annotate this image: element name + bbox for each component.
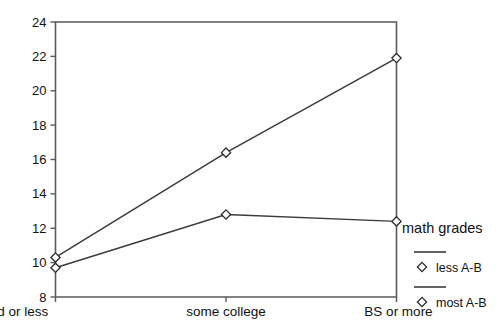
legend-label: most A-B xyxy=(436,296,487,310)
data-point-marker xyxy=(221,148,230,157)
data-point-marker xyxy=(392,217,401,226)
x-tick-label: some college xyxy=(186,304,266,319)
y-tick-label: 20 xyxy=(32,83,46,98)
y-tick-label: 16 xyxy=(32,152,46,167)
legend-marker-icon xyxy=(417,262,426,271)
y-tick-label: 24 xyxy=(32,15,46,30)
series-most-a-b xyxy=(51,210,401,272)
legend-entry[interactable]: less A-B xyxy=(414,252,482,275)
y-tick-label: 12 xyxy=(32,221,46,236)
chart-canvas: 81012141618202224 hs grad or lesssome co… xyxy=(0,0,500,335)
y-tick-label: 8 xyxy=(39,290,46,305)
data-point-marker xyxy=(392,53,401,62)
y-tick-label: 10 xyxy=(32,255,46,270)
series-line xyxy=(56,215,397,268)
series-less-a-b xyxy=(51,53,401,262)
plot-frame xyxy=(56,22,397,297)
legend-title: math grades xyxy=(402,220,483,236)
x-tick-label: hs grad or less xyxy=(0,304,49,319)
data-point-marker xyxy=(51,263,60,272)
plot-border xyxy=(56,22,397,297)
line-chart: 81012141618202224 hs grad or lesssome co… xyxy=(0,0,500,335)
chart-legend: math gradesless A-Bmost A-B xyxy=(402,220,487,310)
y-tick-label: 22 xyxy=(32,49,46,64)
y-tick-label: 18 xyxy=(32,118,46,133)
y-tick-label: 14 xyxy=(32,186,46,201)
data-point-marker xyxy=(221,210,230,219)
x-axis-ticks: hs grad or lesssome collegeBS or more xyxy=(0,297,433,319)
y-axis-ticks: 81012141618202224 xyxy=(32,15,55,305)
data-point-marker xyxy=(51,253,60,262)
data-series-layer xyxy=(51,53,401,272)
legend-label: less A-B xyxy=(436,261,482,275)
